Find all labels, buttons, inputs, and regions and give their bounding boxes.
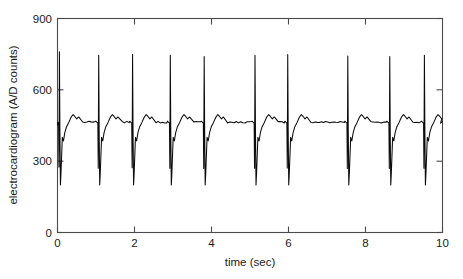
ecg-trace bbox=[58, 52, 443, 185]
x-tick-label-8: 8 bbox=[362, 237, 368, 249]
x-tick-label-10: 10 bbox=[436, 237, 449, 249]
x-axis-title: time (sec) bbox=[225, 256, 276, 268]
ecg-figure: 0 300 600 900 0 2 4 6 8 10 time (sec) el… bbox=[0, 0, 463, 279]
x-tick-label-2: 2 bbox=[131, 237, 137, 249]
plot-frame bbox=[58, 19, 443, 233]
y-tick-label-300: 300 bbox=[33, 155, 52, 167]
y-tick-label-600: 600 bbox=[33, 84, 52, 96]
y-tick-label-900: 900 bbox=[33, 13, 52, 25]
x-tick-label-4: 4 bbox=[208, 237, 215, 249]
y-tick-label-0: 0 bbox=[46, 227, 52, 239]
x-tick-label-0: 0 bbox=[54, 237, 60, 249]
x-axis-ticks bbox=[58, 19, 443, 233]
y-axis-ticks bbox=[58, 19, 443, 233]
y-axis-title: electrocardiogram (A/D counts) bbox=[7, 45, 19, 204]
x-tick-label-6: 6 bbox=[285, 237, 291, 249]
ecg-plot-svg: 0 300 600 900 0 2 4 6 8 10 time (sec) el… bbox=[0, 0, 463, 279]
